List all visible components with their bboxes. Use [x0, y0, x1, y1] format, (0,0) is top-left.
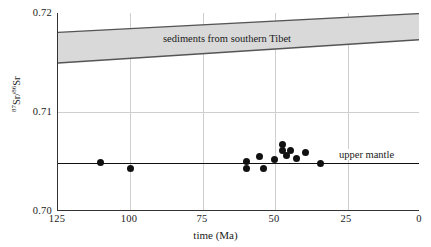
upper-mantle-line	[58, 163, 419, 164]
data-point	[317, 160, 324, 167]
y-axis-title: 87Sr/86Sr	[10, 54, 23, 134]
y-axis-title-mid: Sr/	[11, 93, 22, 105]
y-axis-title-sup-87: 87	[10, 105, 18, 112]
x-tick-label-75: 75	[182, 213, 222, 224]
x-tick-label-25: 25	[326, 213, 366, 224]
x-axis-title: time (Ma)	[0, 229, 431, 241]
chart-figure: 0.72 0.71 0.70 87Sr/86Sr	[0, 0, 431, 247]
y-axis-title-tail: Sr	[11, 76, 22, 85]
data-point	[127, 165, 134, 172]
y-axis-title-sup-86: 86	[10, 86, 18, 93]
x-tick-label-100: 100	[109, 213, 149, 224]
y-tick-label-top: 0.72	[18, 7, 52, 18]
data-point	[293, 155, 300, 162]
x-tick-label-125: 125	[37, 213, 77, 224]
data-point	[256, 153, 263, 160]
sediment-band-label: sediments from southern Tibet	[163, 33, 291, 44]
data-point	[243, 158, 250, 165]
data-point	[97, 159, 104, 166]
y-tick-label-mid: 0.71	[18, 106, 52, 117]
upper-mantle-label: upper mantle	[337, 149, 396, 160]
x-tick-label-0: 0	[399, 213, 431, 224]
x-tick-label-50: 50	[254, 213, 294, 224]
